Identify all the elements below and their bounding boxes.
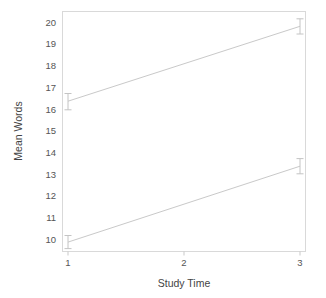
line-chart-canvas: 20 19 18 17 16 15 14 13 12 11 10 1 2 3 S… [0,0,326,298]
y-tick-label-14: 14 [45,147,56,158]
y-tick-label-12: 12 [45,190,56,201]
y-tick-label-11: 11 [46,212,56,223]
y-tick-label-10: 10 [45,234,56,245]
x-tick-label-3: 3 [297,257,302,268]
x-tick-label-1: 1 [65,257,70,268]
y-axis-title: Mean Words [12,101,24,160]
x-axis-title: Study Time [158,277,211,289]
y-tick-label-18: 18 [45,60,56,71]
y-tick-label-16: 16 [45,104,56,115]
y-tick-label-19: 19 [45,38,56,49]
plot-area-frame [63,12,306,252]
chart-figure: 20 19 18 17 16 15 14 13 12 11 10 1 2 3 S… [0,0,326,298]
y-tick-label-20: 20 [45,17,56,28]
y-tick-label-15: 15 [45,125,56,136]
y-tick-label-17: 17 [45,82,56,93]
x-tick-label-2: 2 [181,257,186,268]
y-tick-label-13: 13 [45,169,56,180]
